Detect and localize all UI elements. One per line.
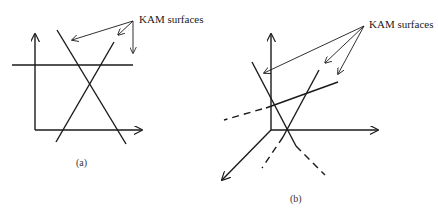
tilted-kam-line-dashed bbox=[224, 109, 262, 120]
panel-b bbox=[222, 26, 378, 180]
tilted-kam-line bbox=[266, 82, 338, 108]
panel-a bbox=[12, 21, 142, 144]
caption-b: (b) bbox=[290, 193, 302, 204]
kam-surfaces-label-b: KAM surfaces bbox=[369, 18, 433, 30]
diagonal-kam-line-2 bbox=[56, 42, 114, 142]
annotation-arrows bbox=[264, 26, 364, 74]
diagonal-kam-line-1-dashed bbox=[296, 146, 325, 175]
annotation-arrows bbox=[72, 21, 133, 53]
diagram-canvas bbox=[0, 0, 438, 213]
diagonal-kam-line-1 bbox=[57, 30, 126, 144]
caption-a: (a) bbox=[76, 157, 87, 168]
diagonal-kam-line-2 bbox=[283, 70, 319, 137]
depth-axis bbox=[222, 130, 271, 180]
kam-surfaces-label-a: KAM surfaces bbox=[139, 13, 203, 25]
diagonal-kam-line-1 bbox=[252, 62, 296, 146]
diagonal-kam-line-2-dashed bbox=[262, 137, 283, 168]
